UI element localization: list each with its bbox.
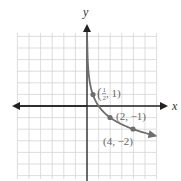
svg-text:, 1): , 1) bbox=[106, 87, 121, 100]
point-4-neg2 bbox=[130, 126, 135, 131]
x-axis-label: x bbox=[171, 99, 178, 113]
label-point-4-neg2: (4, −2) bbox=[103, 135, 133, 148]
label-point-2-neg1: (2, −1) bbox=[116, 110, 146, 123]
label-point-half-1: ( 1 2 , 1) bbox=[97, 86, 121, 102]
log-graph: x y ( 1 2 , 1) (2, −1) (4, −2) bbox=[0, 0, 181, 181]
point-half-1 bbox=[90, 92, 95, 97]
y-axis-label: y bbox=[82, 5, 89, 19]
point-2-neg1 bbox=[107, 115, 112, 120]
svg-text:(: ( bbox=[97, 86, 102, 102]
